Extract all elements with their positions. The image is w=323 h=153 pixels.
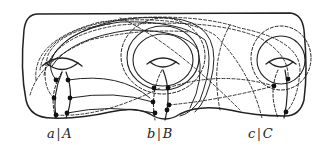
label-c-lower: c — [248, 126, 256, 141]
intersection-points — [52, 77, 291, 118]
label-c-upper: C — [263, 126, 273, 141]
label-handle-c: c|C — [248, 126, 273, 141]
label-handle-b: b|B — [147, 126, 173, 141]
label-c-separator: | — [257, 126, 262, 141]
handle-b — [121, 18, 205, 120]
handle-a — [42, 58, 82, 118]
label-b-lower: b — [147, 126, 156, 141]
label-b-separator: | — [157, 126, 162, 141]
label-a-separator: | — [56, 126, 61, 141]
label-a-upper: A — [62, 126, 72, 141]
label-handle-a: a|A — [47, 126, 72, 141]
surface-outline — [22, 13, 306, 119]
label-b-upper: B — [163, 126, 173, 141]
label-a-lower: a — [47, 126, 55, 141]
